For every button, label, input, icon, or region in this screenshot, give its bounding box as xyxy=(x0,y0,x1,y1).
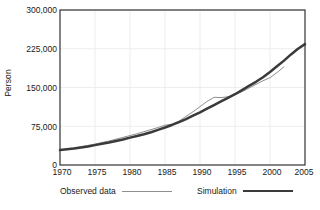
legend-swatch-simulation xyxy=(243,190,293,192)
legend-label-observed: Observed data xyxy=(60,186,116,196)
legend-item-observed: Observed data xyxy=(60,186,172,196)
plot-area xyxy=(0,0,320,210)
legend-item-simulation: Simulation xyxy=(197,186,293,196)
chart-figure: Person 300,000 225,000 150,000 75,000 0 … xyxy=(0,0,320,210)
legend-swatch-observed xyxy=(122,191,172,192)
legend-label-simulation: Simulation xyxy=(197,186,237,196)
chart-legend: Observed data Simulation xyxy=(0,186,320,208)
data-lines xyxy=(60,44,305,150)
gridlines xyxy=(60,10,305,165)
